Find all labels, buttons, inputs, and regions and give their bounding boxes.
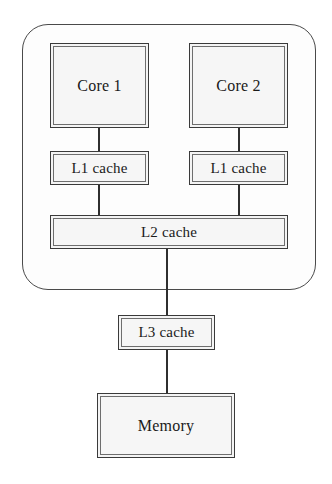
node-memory-label: Memory bbox=[138, 417, 194, 435]
connector-l3-to-memory bbox=[166, 349, 168, 394]
node-l1-cache-right: L1 cache bbox=[189, 151, 288, 185]
node-core-1: Core 1 bbox=[50, 43, 149, 128]
node-l3-cache-inner: L3 cache bbox=[121, 318, 213, 348]
node-core-2: Core 2 bbox=[189, 43, 288, 128]
node-l2-cache: L2 cache bbox=[50, 215, 288, 249]
connector-core2-to-l1 bbox=[238, 127, 240, 152]
node-l2-cache-label: L2 cache bbox=[141, 224, 197, 241]
node-core-1-label: Core 1 bbox=[77, 77, 121, 95]
connector-l1-to-l2-right bbox=[238, 184, 240, 216]
node-core-1-inner: Core 1 bbox=[53, 46, 147, 126]
connector-l2-to-l3 bbox=[166, 248, 168, 316]
node-l1-cache-right-inner: L1 cache bbox=[192, 154, 286, 183]
node-l2-cache-inner: L2 cache bbox=[53, 218, 286, 247]
diagram-canvas: Core 1 Core 2 L1 cache L1 cache L2 cache… bbox=[0, 0, 332, 484]
node-core-2-inner: Core 2 bbox=[192, 46, 286, 126]
node-l1-cache-left: L1 cache bbox=[50, 151, 149, 185]
node-l1-cache-left-inner: L1 cache bbox=[53, 154, 147, 183]
node-core-2-label: Core 2 bbox=[216, 77, 260, 95]
node-memory: Memory bbox=[97, 393, 235, 458]
node-l1-cache-left-label: L1 cache bbox=[71, 160, 127, 177]
node-l1-cache-right-label: L1 cache bbox=[210, 160, 266, 177]
node-l3-cache: L3 cache bbox=[118, 315, 215, 350]
connector-l1-to-l2-left bbox=[98, 184, 100, 216]
node-l3-cache-label: L3 cache bbox=[138, 324, 194, 341]
connector-core1-to-l1 bbox=[98, 127, 100, 152]
node-memory-inner: Memory bbox=[100, 396, 233, 456]
